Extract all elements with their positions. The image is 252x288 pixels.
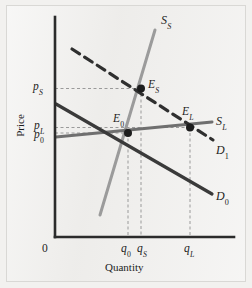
label-point-el: EL bbox=[182, 106, 193, 120]
guide-lines bbox=[55, 89, 190, 238]
label-point-e0: E0 bbox=[113, 113, 124, 127]
x-axis-title: Quantity bbox=[105, 262, 144, 273]
label-curve-ss: SS bbox=[161, 14, 171, 30]
y-axis-title: Price bbox=[15, 96, 26, 156]
label-point-es: ES bbox=[148, 79, 159, 93]
label-curve-d1: D1 bbox=[216, 144, 229, 160]
label-curve-d0: D0 bbox=[216, 190, 229, 206]
supply-demand-figure: SS SL D1 D0 ES E0 EL pS pL p0 q0 qS qL 0… bbox=[0, 0, 252, 288]
point-marker-e0 bbox=[124, 129, 132, 137]
label-curve-sl: SL bbox=[216, 115, 227, 131]
tick-label-price-ps: pS bbox=[33, 81, 43, 95]
tick-label-qty-ql: qL bbox=[184, 243, 194, 257]
origin-label: 0 bbox=[42, 243, 48, 255]
tick-label-qty-q0: q0 bbox=[121, 243, 131, 257]
point-marker-el bbox=[186, 124, 194, 132]
tick-label-qty-qs: qS bbox=[137, 243, 147, 257]
curve-short-run-supply bbox=[100, 30, 155, 215]
tick-label-price-p0: p0 bbox=[34, 129, 44, 143]
point-marker-es bbox=[137, 85, 145, 93]
